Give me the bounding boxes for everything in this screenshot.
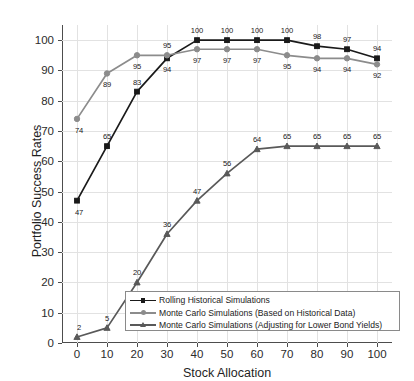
x-axis-title: Stock Allocation: [62, 366, 392, 380]
legend-item-3[interactable]: Monte Carlo Simulations (Adjusting for L…: [130, 319, 395, 331]
x-tick: [347, 343, 348, 347]
data-point-label: 65: [283, 132, 291, 141]
x-tick: [287, 343, 288, 347]
data-point-label: 95: [133, 62, 141, 71]
x-tick: [317, 343, 318, 347]
x-tick: [257, 343, 258, 347]
x-tick: [107, 343, 108, 347]
legend-item-2[interactable]: Monte Carlo Simulations (Based on Histor…: [130, 307, 395, 319]
legend-marker-icon: [130, 319, 156, 331]
data-point-label: 83: [133, 77, 141, 86]
y-axis-title: Portfolio Success Rates: [30, 81, 44, 301]
data-point-marker: [225, 38, 230, 43]
data-point-marker: [375, 56, 380, 61]
chart-figure: 4765839410010010010098979474899595979797…: [0, 0, 414, 381]
data-point-label: 95: [163, 41, 171, 50]
y-tick-label: 90: [41, 64, 54, 76]
x-tick: [227, 343, 228, 347]
data-point-marker: [105, 144, 110, 149]
data-point-label: 100: [191, 26, 203, 35]
data-point-marker: [224, 47, 229, 52]
y-tick-label: 0: [48, 337, 54, 349]
data-point-label: 98: [313, 32, 321, 41]
data-point-label: 74: [75, 125, 83, 134]
data-point-marker: [104, 71, 109, 76]
legend-marker-icon: [130, 307, 156, 319]
data-point-label: 20: [133, 268, 141, 277]
data-point-label: 65: [343, 132, 351, 141]
x-tick: [167, 343, 168, 347]
data-point-label: 97: [253, 56, 261, 65]
data-point-marker: [134, 53, 139, 58]
legend-item-label: Monte Carlo Simulations (Adjusting for L…: [159, 319, 382, 331]
data-point-label: 36: [163, 219, 171, 228]
data-point-marker: [374, 62, 379, 67]
data-point-marker: [194, 47, 199, 52]
data-point-label: 56: [223, 159, 231, 168]
chart-legend: Rolling Historical SimulationsMonte Carl…: [125, 291, 400, 331]
data-point-marker: [315, 44, 320, 49]
data-point-marker: [284, 53, 289, 58]
x-tick: [137, 343, 138, 347]
data-point-label: 100: [281, 26, 293, 35]
x-tick-label: 30: [161, 348, 174, 360]
legend-item-label: Rolling Historical Simulations: [159, 294, 270, 306]
x-tick-label: 90: [341, 348, 354, 360]
data-point-label: 5: [105, 313, 109, 322]
data-point-marker: [314, 56, 319, 61]
x-tick-label: 50: [221, 348, 234, 360]
legend-item-label: Monte Carlo Simulations (Based on Histor…: [159, 307, 355, 319]
data-point-label: 95: [283, 62, 291, 71]
data-point-marker: [344, 56, 349, 61]
x-tick-label: 40: [191, 348, 204, 360]
data-point-label: 94: [343, 65, 351, 74]
data-point-marker: [164, 53, 169, 58]
data-point-label: 47: [75, 207, 83, 216]
data-point-label: 94: [163, 65, 171, 74]
x-tick-label: 80: [311, 348, 324, 360]
legend-item-1[interactable]: Rolling Historical Simulations: [130, 294, 395, 306]
data-point-label: 65: [373, 132, 381, 141]
data-point-marker: [255, 38, 260, 43]
x-tick-label: 60: [251, 348, 264, 360]
data-point-label: 100: [221, 26, 233, 35]
data-point-label: 64: [253, 135, 261, 144]
data-point-label: 65: [313, 132, 321, 141]
x-tick: [77, 343, 78, 347]
data-point-marker: [75, 198, 80, 203]
data-point-label: 94: [373, 44, 381, 53]
x-tick-label: 0: [74, 348, 80, 360]
x-tick-label: 100: [367, 348, 386, 360]
y-tick: [58, 343, 62, 344]
x-tick-label: 10: [101, 348, 114, 360]
data-point-marker: [345, 47, 350, 52]
data-point-label: 92: [373, 71, 381, 80]
data-point-label: 97: [193, 56, 201, 65]
data-point-label: 97: [223, 56, 231, 65]
x-tick-label: 70: [281, 348, 294, 360]
x-tick: [197, 343, 198, 347]
y-tick-label: 10: [41, 307, 54, 319]
data-point-label: 94: [313, 65, 321, 74]
data-point-marker: [74, 116, 79, 121]
x-tick: [377, 343, 378, 347]
data-point-label: 47: [193, 186, 201, 195]
data-point-marker: [254, 47, 259, 52]
y-tick-label: 100: [35, 34, 54, 46]
data-point-marker: [285, 38, 290, 43]
legend-marker-icon: [130, 294, 156, 306]
data-point-label: 2: [77, 322, 81, 331]
data-point-label: 100: [251, 26, 263, 35]
data-point-label: 65: [103, 132, 111, 141]
data-point-marker: [195, 38, 200, 43]
data-point-label: 89: [103, 80, 111, 89]
data-point-marker: [135, 89, 140, 94]
x-tick-label: 20: [131, 348, 144, 360]
data-point-label: 97: [343, 35, 351, 44]
